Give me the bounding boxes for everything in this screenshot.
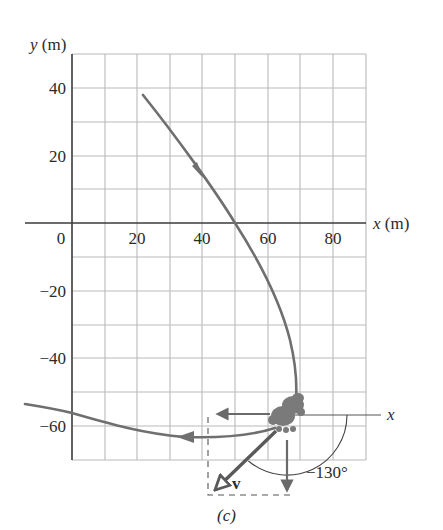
trajectory-diagram: y (m) x (m) 40 20 −20 −40 −60 0 20 40 60… (0, 0, 443, 530)
direction-arrow-icon (177, 431, 194, 443)
local-x-axis-label: x (386, 405, 395, 424)
y-tick-40: 40 (49, 79, 66, 98)
direction-arrow-icon (192, 162, 203, 178)
angle-label: −130° (306, 463, 348, 482)
grid (72, 54, 366, 460)
x-tick-20: 20 (129, 229, 146, 248)
y-tick-labels: 40 20 −20 −40 −60 (39, 79, 66, 436)
x-tick-80: 80 (325, 229, 342, 248)
x-tick-0: 0 (57, 229, 66, 248)
x-tick-60: 60 (260, 229, 277, 248)
x-tick-labels: 0 20 40 60 80 (57, 229, 342, 248)
x-axis-label: x (m) (372, 214, 409, 233)
y-tick-neg60: −60 (39, 417, 66, 436)
x-tick-40: 40 (194, 229, 211, 248)
figure-caption: (c) (217, 506, 236, 525)
y-tick-20: 20 (49, 147, 66, 166)
y-tick-neg20: −20 (39, 282, 66, 301)
velocity-label: v (232, 474, 241, 493)
y-tick-neg40: −40 (39, 349, 66, 368)
y-axis-label: y (m) (28, 35, 66, 54)
